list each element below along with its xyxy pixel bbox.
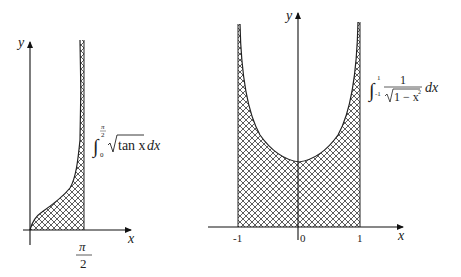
left-x-label: x (127, 231, 135, 246)
left-shaded-region (30, 40, 84, 230)
left-y-label: y (16, 35, 25, 50)
integral-dx: dx (425, 80, 439, 95)
right-tick-1: 1 (357, 232, 363, 244)
integral-upper: 1 (377, 74, 381, 82)
integral-numerator: 1 (400, 73, 406, 87)
integral-sign: ∫ (91, 135, 100, 159)
left-integral-label: ∫ 0 π 2 tan x dx (91, 123, 161, 159)
right-tick-neg1: -1 (233, 232, 242, 244)
integral-lower: -1 (375, 90, 381, 98)
integral-exponent: 2 (418, 89, 421, 95)
right-shaded-region (238, 22, 360, 227)
right-y-label: y (284, 8, 293, 23)
integral-upper-num: π (101, 123, 105, 131)
right-integral-label: ∫ 1 -1 1 1 − x 2 dx (367, 73, 439, 104)
left-plot: y x π 2 ∫ 0 π 2 tan x dx (16, 35, 161, 271)
left-tick-two: 2 (80, 256, 87, 271)
integral-upper-den: 2 (101, 131, 105, 139)
integral-lower: 0 (100, 151, 104, 159)
integral-denominator: 1 − x (394, 90, 419, 104)
left-tick-pi: π (79, 239, 86, 254)
figure-canvas: y x π 2 ∫ 0 π 2 tan x dx y x -1 0 1 ∫ 1 (0, 0, 461, 277)
right-tick-0: 0 (300, 232, 306, 244)
integrand-dx: dx (147, 138, 161, 153)
integrand-tan: tan x (118, 138, 146, 153)
right-plot: y x -1 0 1 ∫ 1 -1 1 1 − x 2 dx (208, 8, 439, 244)
right-x-label: x (397, 228, 405, 243)
